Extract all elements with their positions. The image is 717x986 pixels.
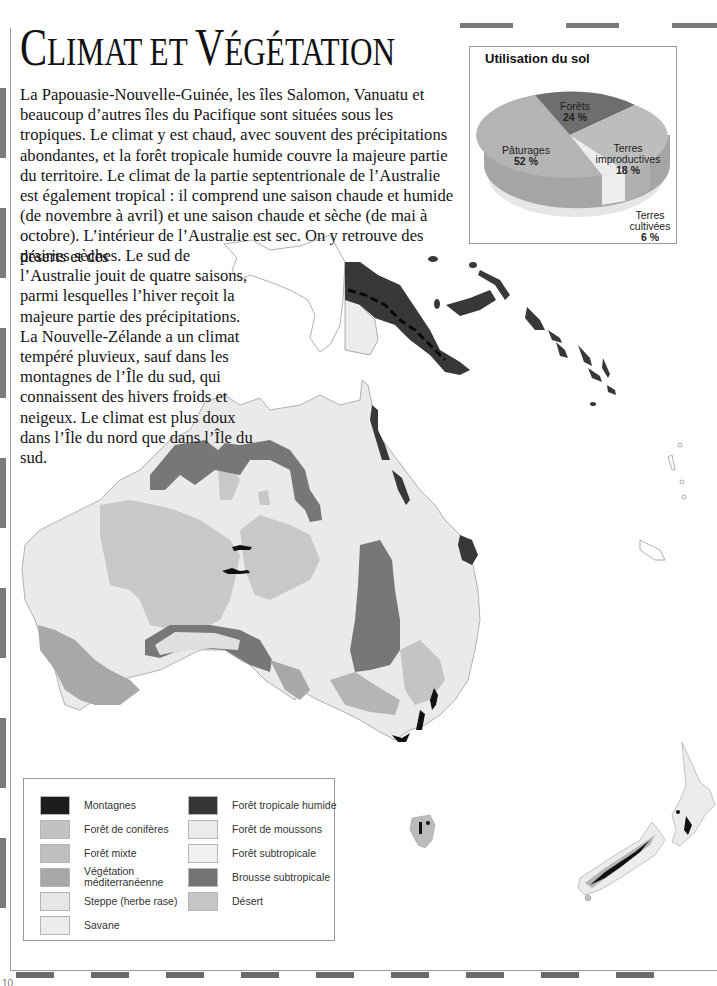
pie-label-paturages: Pâturages52 % <box>496 145 556 167</box>
legend-swatch <box>40 844 70 863</box>
legend-item-coniferes: Forêt de conifères <box>40 817 177 841</box>
legend-item-foret-subtropicale: Forêt subtropicale <box>188 841 336 865</box>
legend-swatch <box>40 916 70 935</box>
pie-label-terres-cultivees: Terrescultivées6 % <box>625 210 675 243</box>
legend-swatch <box>188 844 218 863</box>
legend-column-1: Montagnes Forêt de conifères Forêt mixte… <box>40 793 177 937</box>
pie-label-forets: Forêts24 % <box>550 101 600 123</box>
legend-swatch <box>40 820 70 839</box>
legend-item-desert: Désert <box>188 889 336 913</box>
legend-swatch <box>188 892 218 911</box>
land-use-pie-chart: Utilisation du sol Forêts24 % Terresimpr… <box>469 46 677 244</box>
map-legend: Montagnes Forêt de conifères Forêt mixte… <box>23 778 335 941</box>
legend-swatch <box>188 868 218 887</box>
pie-label-terres-improductives: Terresimproductives18 % <box>588 143 668 176</box>
legend-column-2: Forêt tropicale humide Forêt de moussons… <box>188 793 336 913</box>
legend-swatch <box>40 796 70 815</box>
legend-swatch <box>188 796 218 815</box>
intro-paragraph: La Papouasie-Nouvelle-Guinée, les îles S… <box>20 85 460 267</box>
legend-swatch <box>188 820 218 839</box>
intro-paragraph-continued: prairies sèches. Le sud de l’Australie j… <box>20 246 260 468</box>
legend-item-steppe: Steppe (herbe rase) <box>40 889 177 913</box>
legend-item-mediterraneenne: Végétation méditerranéenne <box>40 865 177 889</box>
legend-swatch <box>40 868 70 887</box>
legend-item-foret-tropicale: Forêt tropicale humide <box>188 793 336 817</box>
legend-item-savane: Savane <box>40 913 177 937</box>
legend-item-foret-moussons: Forêt de moussons <box>188 817 336 841</box>
legend-item-brousse: Brousse subtropicale <box>188 865 336 889</box>
legend-item-foret-mixte: Forêt mixte <box>40 841 177 865</box>
legend-item-montagnes: Montagnes <box>40 793 177 817</box>
legend-swatch <box>40 892 70 911</box>
